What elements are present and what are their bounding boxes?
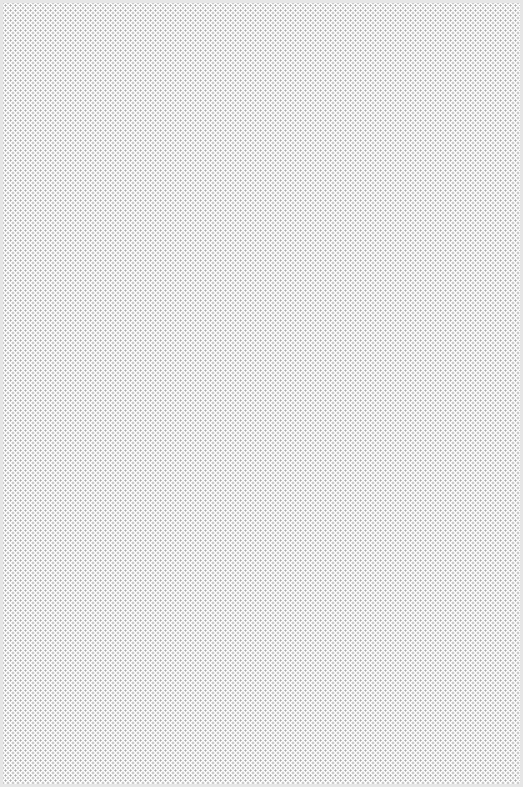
dotted-pattern-canvas (3, 3, 520, 784)
dotted-canvas-frame (0, 0, 523, 787)
